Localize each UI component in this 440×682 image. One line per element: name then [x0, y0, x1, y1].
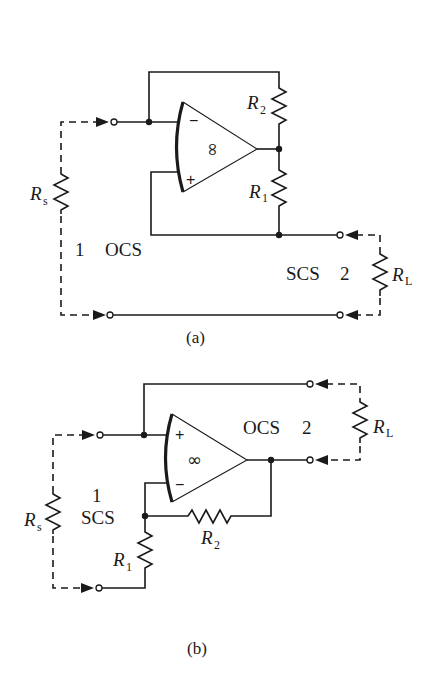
arrow-icon [93, 310, 106, 320]
svg-text:1: 1 [126, 560, 132, 574]
r1-label: R 1 [112, 549, 132, 574]
port1-type-label: SCS [81, 507, 115, 528]
svg-text:2: 2 [214, 538, 220, 552]
svg-text:L: L [386, 426, 393, 440]
output-node [276, 146, 282, 152]
arrow-icon [96, 117, 109, 127]
port1-terminal-bottom [96, 585, 102, 591]
port2-terminal-top [337, 232, 343, 238]
load-dashed-wire [356, 298, 380, 315]
opamp-b: + − ∞ [166, 414, 248, 502]
r2-label: R 2 [200, 527, 220, 552]
port2-terminal-bottom [337, 312, 343, 318]
svg-text:R: R [391, 264, 404, 285]
port2-terminal-bottom [307, 457, 313, 463]
rl-label: R L [372, 416, 393, 440]
port1-number: 1 [92, 485, 102, 506]
load-dashed-wire [326, 384, 360, 398]
inverting-input-wire [145, 483, 168, 516]
opamp-input-arc [177, 102, 184, 192]
r1-resistor [272, 149, 286, 234]
svg-text:R: R [23, 509, 36, 530]
port2-terminal-top [307, 381, 313, 387]
port2-type-label: SCS [286, 263, 320, 284]
arrow-icon [345, 310, 358, 320]
source-dashed-wire [61, 216, 97, 315]
caption-b: (b) [187, 639, 207, 658]
svg-text:s: s [37, 520, 42, 534]
rs-label: R s [29, 183, 48, 208]
rs-label: R s [23, 509, 42, 534]
rs-resistor [54, 170, 68, 214]
noninverting-sign: + [175, 426, 184, 443]
junction-node [276, 232, 282, 238]
r1-label: R 1 [248, 181, 268, 205]
output-node [268, 457, 274, 463]
arrow-icon [81, 583, 94, 593]
r2-label: R 2 [246, 92, 266, 117]
arrow-icon [82, 430, 95, 440]
junction-node [146, 119, 152, 125]
arrow-icon [315, 455, 328, 465]
svg-text:L: L [405, 274, 412, 288]
port1-number: 1 [75, 239, 85, 260]
rl-label: R L [391, 264, 412, 288]
source-dashed-wire [53, 435, 86, 490]
port2-type-label: OCS [243, 417, 280, 438]
junction-node [141, 432, 147, 438]
r2-resistor [145, 460, 271, 523]
source-dashed-wire [61, 122, 100, 170]
port2-number: 2 [340, 263, 350, 284]
caption-a: (a) [186, 328, 205, 347]
arrow-icon [345, 230, 358, 240]
load-dashed-wire [326, 446, 360, 460]
port1-terminal-top [97, 432, 103, 438]
rs-resistor [46, 490, 60, 534]
r2-resistor [272, 84, 286, 149]
svg-text:R: R [246, 92, 259, 113]
svg-text:R: R [248, 181, 261, 202]
port1-terminal-bottom [107, 312, 113, 318]
port1-terminal-top [111, 119, 117, 125]
svg-text:R: R [200, 527, 213, 548]
svg-text:2: 2 [260, 103, 266, 117]
diagram-b: + − ∞ R s R 1 [23, 379, 393, 658]
port1-type-label: OCS [105, 239, 142, 260]
svg-text:R: R [112, 549, 125, 570]
diagram-a: − + ∞ R 2 R 1 [29, 72, 412, 347]
infinity-gain-symbol: ∞ [187, 449, 202, 470]
rl-resistor [373, 250, 387, 296]
rl-resistor [353, 398, 367, 443]
port2-number: 2 [302, 417, 312, 438]
svg-text:1: 1 [262, 191, 268, 205]
svg-text:R: R [372, 416, 385, 437]
load-dashed-wire [356, 235, 380, 250]
source-dashed-wire [53, 536, 85, 588]
noninverting-sign: + [186, 171, 195, 188]
inverting-sign: − [189, 112, 198, 129]
circuit-diagrams: − + ∞ R 2 R 1 [0, 0, 440, 682]
junction-node [142, 513, 148, 519]
infinity-gain-symbol: ∞ [203, 142, 224, 157]
inverting-sign: − [175, 476, 184, 493]
svg-text:R: R [29, 183, 42, 204]
opamp-a: − + ∞ [177, 102, 258, 192]
opamp-input-arc [166, 414, 173, 502]
arrow-icon [315, 379, 328, 389]
svg-text:s: s [43, 194, 48, 208]
